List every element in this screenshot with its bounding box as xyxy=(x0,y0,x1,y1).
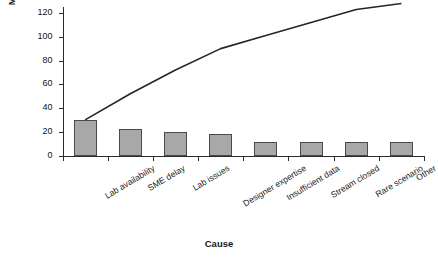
y-tick-label: 80 xyxy=(27,56,53,65)
x-tick-mark xyxy=(108,156,109,161)
x-tick-mark xyxy=(63,156,64,161)
bar xyxy=(209,134,232,155)
pareto-chart: Magnitude Cause 020406080100120Lab avail… xyxy=(0,0,438,257)
x-axis-title: Cause xyxy=(0,238,438,249)
cumulative-line-layer xyxy=(0,0,438,257)
bar xyxy=(119,129,142,155)
x-category-label: Lab issues xyxy=(191,163,231,193)
bar xyxy=(254,142,277,155)
y-tick-label: 20 xyxy=(27,127,53,136)
bar xyxy=(345,142,368,155)
y-tick-label: 120 xyxy=(27,8,53,17)
x-tick-mark xyxy=(198,156,199,161)
x-tick-mark xyxy=(153,156,154,161)
y-tick-label: 100 xyxy=(27,32,53,41)
x-tick-mark xyxy=(288,156,289,161)
bar xyxy=(300,142,323,155)
y-tick-mark xyxy=(59,108,63,109)
x-tick-mark xyxy=(424,156,425,161)
y-tick-label: 60 xyxy=(27,79,53,88)
y-tick-label: 0 xyxy=(27,151,53,160)
x-tick-mark xyxy=(243,156,244,161)
bar xyxy=(164,132,187,156)
y-tick-mark xyxy=(59,37,63,38)
y-tick-mark xyxy=(59,13,63,14)
y-tick-mark xyxy=(59,132,63,133)
y-tick-mark xyxy=(59,84,63,85)
y-axis-line xyxy=(63,7,64,156)
y-tick-label: 40 xyxy=(27,103,53,112)
y-axis-title: Magnitude xyxy=(6,0,17,36)
x-tick-mark xyxy=(334,156,335,161)
cumulative-line xyxy=(85,4,401,120)
bar xyxy=(390,142,413,155)
y-tick-mark xyxy=(59,61,63,62)
x-tick-mark xyxy=(379,156,380,161)
bar xyxy=(74,120,97,156)
